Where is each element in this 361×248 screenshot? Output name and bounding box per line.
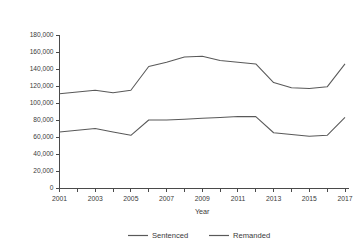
legend-item-remanded[interactable]: Remanded [209,231,270,240]
x-axis-tick-label: 2007 [159,195,174,202]
x-axis-tick-label: 2009 [195,195,210,202]
series-line-sentenced [60,56,346,93]
legend-label: Sentenced [152,231,188,240]
y-axis-tick-label: 180,000 [30,31,54,38]
y-axis-tick-label: 40,000 [33,150,54,157]
x-axis-tick-label: 2017 [337,195,352,202]
y-axis-tick-label: 20,000 [33,167,54,174]
chart-plot-svg: 020,00040,00060,00080,000100,000120,0001… [0,0,361,248]
y-axis-tick-label: 80,000 [33,116,54,123]
series-line-remanded [60,117,346,137]
line-chart-figure: 020,00040,00060,00080,000100,000120,0001… [0,0,361,248]
y-axis-tick-label: 0 [50,184,54,191]
y-axis-tick-label: 160,000 [30,48,54,55]
x-axis-tick-label: 2005 [123,195,138,202]
legend-label: Remanded [233,231,270,240]
x-axis-title: Year [195,207,210,216]
y-axis-tick-label: 120,000 [30,82,54,89]
y-axis-tick-label: 60,000 [33,133,54,140]
x-axis-tick-label: 2011 [231,195,246,202]
x-axis-tick-label: 2001 [52,195,67,202]
x-axis-tick-label: 2003 [88,195,103,202]
x-axis-tick-label: 2013 [266,195,281,202]
x-axis-tick-label: 2015 [302,195,317,202]
legend-item-sentenced[interactable]: Sentenced [128,231,188,240]
y-axis-tick-label: 140,000 [30,65,54,72]
y-axis-tick-label: 100,000 [30,99,54,106]
